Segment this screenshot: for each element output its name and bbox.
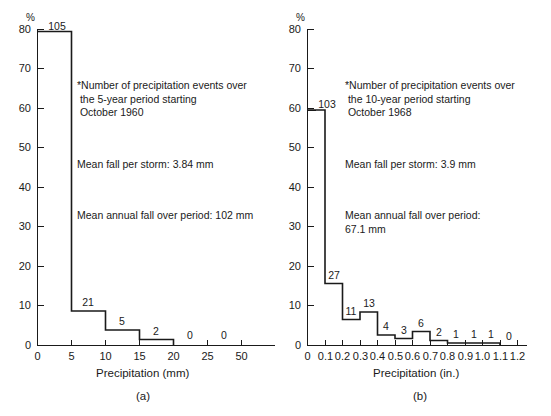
note-line-a-3: Mean annual fall over period: 102 mm [77, 209, 253, 223]
note-line-b-1: *Number of precipitation events over the… [345, 79, 515, 120]
bar-count-label-a-3: 5 [109, 315, 135, 327]
bar-count-label-a-2: 21 [75, 296, 101, 308]
note-line-b-2: Mean fall per storm: 3.9 mm [345, 158, 515, 172]
bar-count-label-b-1: 103 [314, 98, 340, 110]
bar-count-label-a-6: 0 [211, 329, 237, 341]
panel-caption-a: (a) [136, 390, 150, 402]
precipitation-histogram-figure: % 80 70 60 50 40 30 20 10 0 [0, 0, 551, 416]
x-tick-label-a-50: 50 [229, 350, 254, 362]
note-line-a-1: *Number of precipitation events over the… [77, 79, 253, 120]
annotation-note-a: *Number of precipitation events over the… [77, 52, 253, 250]
bar-count-label-a-1: 105 [44, 20, 70, 32]
chart-panel-b: % 80 70 60 50 40 30 20 10 0 [275, 0, 551, 416]
x-tick-label-a-20: 20 [161, 350, 186, 362]
bar-count-label-a-4: 2 [143, 325, 169, 337]
x-tick-label-a-0: 0 [25, 350, 50, 362]
panel-caption-b: (b) [413, 390, 427, 402]
note-line-a-2: Mean fall per storm: 3.84 mm [77, 158, 253, 172]
x-axis-title-b: Precipitation (in.) [373, 367, 459, 379]
x-tick-label-a-10: 10 [93, 350, 118, 362]
bar-count-label-b-4: 13 [356, 297, 382, 309]
bar-count-label-b-12: 0 [496, 330, 522, 342]
annotation-note-b: *Number of precipitation events over the… [345, 52, 515, 263]
bar-count-label-b-2: 27 [321, 269, 347, 281]
bar-count-label-a-5: 0 [177, 329, 203, 341]
x-tick-label-a-15: 15 [127, 350, 152, 362]
x-tick-label-a-25: 25 [195, 350, 220, 362]
x-tick-label-a-5: 5 [59, 350, 84, 362]
note-line-b-3: Mean annual fall over period: 67.1 mm [345, 209, 515, 236]
x-axis-title-a: Precipitation (mm) [96, 367, 189, 379]
chart-panel-a: % 80 70 60 50 40 30 20 10 0 [0, 0, 276, 416]
x-tick-label-b-1.2: 1.2 [507, 350, 528, 362]
